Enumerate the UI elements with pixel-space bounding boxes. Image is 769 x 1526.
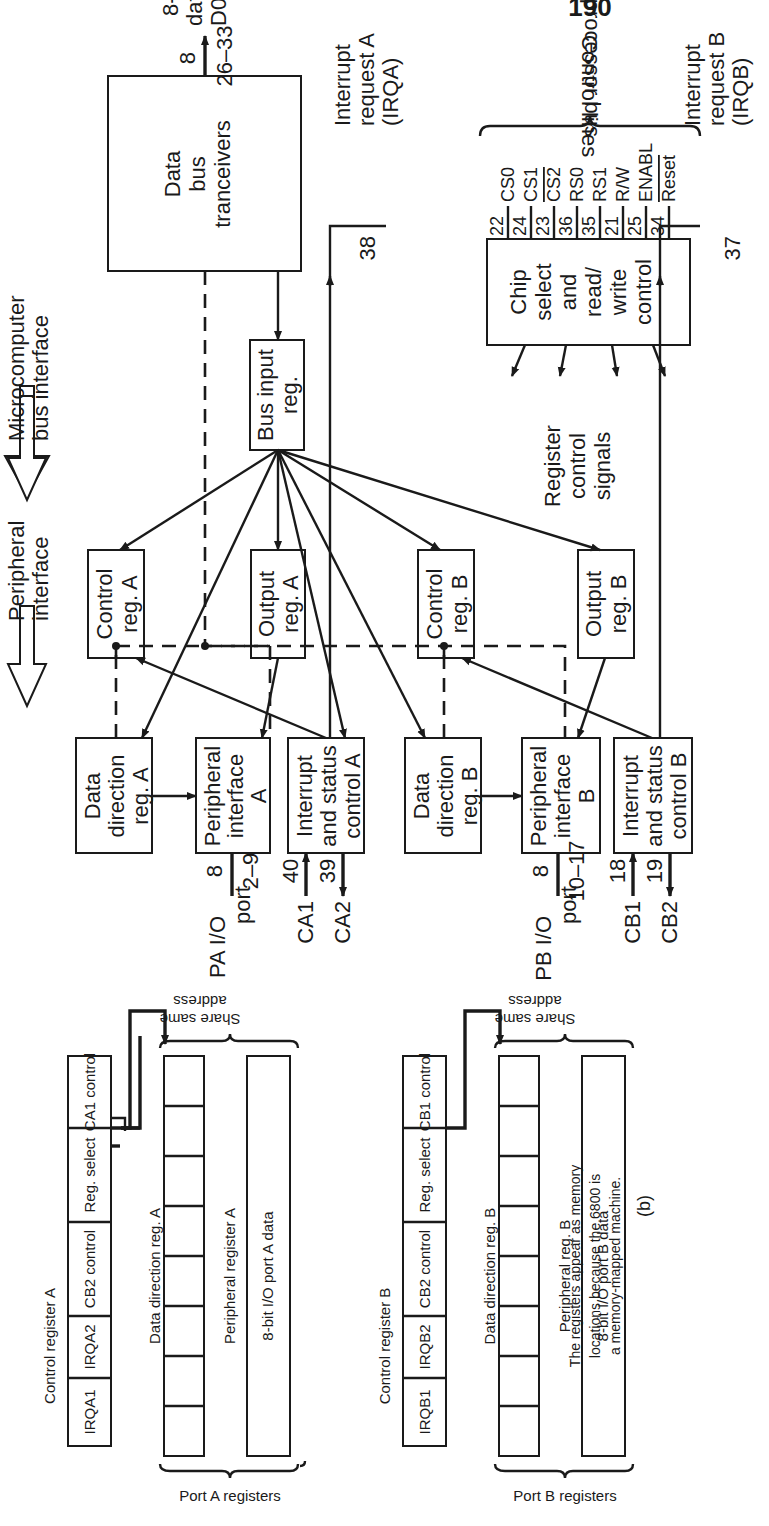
svg-text:Peripheral: Peripheral	[4, 521, 29, 621]
svg-text:port: port	[230, 886, 255, 924]
block-data-direction-reg-a: Data direction reg. A	[76, 738, 153, 853]
svg-text:25: 25	[625, 216, 645, 236]
svg-text:18: 18	[605, 859, 630, 883]
svg-text:24: 24	[510, 216, 530, 236]
share-same-address-brace-b	[495, 1034, 633, 1048]
svg-text:B: B	[574, 789, 599, 804]
svg-text:interface: interface	[550, 754, 575, 838]
svg-text:Control: Control	[92, 569, 117, 640]
block-interrupt-status-control-b: Interrupt and status control B	[614, 738, 692, 853]
svg-text:reg. B: reg. B	[606, 575, 631, 634]
svg-text:locations because the 6800 is: locations because the 6800 is	[587, 1174, 603, 1358]
svg-text:direction: direction	[433, 754, 458, 837]
svg-text:39: 39	[315, 859, 340, 883]
svg-text:select: select	[531, 263, 556, 320]
svg-text:40: 40	[278, 859, 303, 883]
svg-text:bus interface: bus interface	[28, 315, 53, 441]
port-ca1: 40 CA1	[278, 853, 318, 944]
svg-text:reg. B: reg. B	[447, 575, 472, 634]
svg-text:A: A	[246, 788, 271, 803]
svg-text:CA2: CA2	[330, 901, 355, 944]
port-cb1: 18 CB1	[605, 853, 645, 944]
svg-text:signals: signals	[590, 432, 615, 500]
svg-text:port: port	[556, 886, 581, 924]
svg-text:Share same: Share same	[160, 1011, 241, 1028]
svg-text:35: 35	[579, 216, 599, 236]
svg-text:CS0: CS0	[498, 167, 518, 202]
port-ca2: 39 CA2	[315, 853, 355, 944]
port-a-registers: Control register A IRQA1 IRQA2 CB2 contr…	[41, 993, 305, 1504]
block-interrupt-status-control-a: Interrupt and status control A	[288, 738, 365, 853]
block-control-reg-a: Control reg. A	[88, 550, 144, 658]
svg-text:Data: Data	[80, 772, 105, 819]
svg-text:control: control	[631, 259, 656, 325]
svg-text:and status: and status	[316, 745, 341, 847]
control-register-b-title: Control register B	[376, 1288, 393, 1405]
svg-text:request B: request B	[704, 32, 729, 126]
reg-select-pointer-a	[111, 1011, 165, 1128]
svg-text:Interrupt: Interrupt	[618, 755, 643, 837]
svg-text:36: 36	[556, 216, 576, 236]
caption: The registers appear as memory locations…	[567, 1165, 654, 1367]
svg-text:ENABL: ENABL	[636, 143, 656, 202]
svg-text:RS1: RS1	[590, 167, 610, 202]
svg-text:reg. A: reg. A	[278, 575, 303, 633]
svg-text:Port B registers: Port B registers	[513, 1487, 616, 1504]
svg-text:Output: Output	[581, 571, 606, 637]
side-label-peripheral: Peripheral interface	[4, 521, 53, 621]
svg-text:(IRQA): (IRQA)	[378, 58, 403, 126]
svg-text:8: 8	[175, 52, 200, 64]
share-same-address-brace-a	[160, 1034, 298, 1048]
svg-text:control A: control A	[340, 753, 365, 839]
block-bus-input-reg: Bus input reg.	[250, 340, 304, 450]
pia-block-diagram: Microcomputer bus interface Peripheral i…	[0, 0, 769, 1526]
register-control-signals-label: Register control signals	[540, 425, 615, 507]
port-a-brace	[160, 1464, 298, 1478]
svg-text:(IRQB): (IRQB)	[728, 58, 753, 126]
svg-text:Share same: Share same	[495, 1011, 576, 1028]
svg-text:and: and	[556, 274, 581, 311]
svg-text:8-bit: 8-bit	[158, 0, 183, 16]
svg-text:reg. A: reg. A	[117, 575, 142, 633]
page-number: 190	[568, 0, 611, 22]
svg-text:PA I/O: PA I/O	[205, 916, 230, 978]
side-label-microcomputer: Microcomputer bus interface	[4, 296, 53, 441]
svg-text:IRQB2: IRQB2	[416, 1324, 433, 1369]
svg-text:Reg. select: Reg. select	[416, 1137, 433, 1213]
svg-text:22: 22	[487, 216, 507, 236]
svg-text:Microcomputer: Microcomputer	[4, 296, 29, 441]
block-data-bus-tranceivers: Data bus tranceivers	[108, 76, 301, 271]
svg-text:Peripheral register A: Peripheral register A	[221, 1208, 238, 1344]
svg-text:reg. B: reg. B	[457, 767, 482, 826]
block-peripheral-interface-a: Peripheral interface A	[196, 738, 271, 853]
port-pa: 8 2–9 PA I/O port	[202, 853, 263, 978]
svg-text:CB2 control: CB2 control	[416, 1230, 433, 1308]
reg-select-pointer-b	[446, 1011, 500, 1128]
svg-text:CB2 control: CB2 control	[81, 1230, 98, 1308]
svg-text:Chip: Chip	[506, 269, 531, 314]
svg-text:19: 19	[642, 859, 667, 883]
svg-text:Port A registers: Port A registers	[179, 1487, 281, 1504]
svg-text:address: address	[508, 993, 561, 1010]
svg-text:Data direction reg. B: Data direction reg. B	[481, 1208, 498, 1345]
svg-text:D0–D7: D0–D7	[206, 0, 231, 26]
part-label-b: (b)	[634, 1195, 654, 1217]
svg-text:8: 8	[528, 865, 553, 877]
port-cb2: 19 CB2	[642, 853, 682, 944]
port-pb: 8 10–17 PB I/O port	[528, 840, 589, 980]
block-output-reg-a: Output reg. A	[251, 550, 305, 658]
svg-text:CA1 control: CA1 control	[81, 1053, 98, 1131]
svg-text:8-bit I/O port A data: 8-bit I/O port A data	[259, 1211, 276, 1341]
svg-text:CS2: CS2	[544, 167, 564, 202]
svg-text:address: address	[173, 993, 226, 1010]
data-bus-d0-d7: 8 26–33 8-bit data bus D0–D7	[158, 0, 237, 87]
svg-text:Interrupt: Interrupt	[292, 755, 317, 837]
svg-text:control: control	[565, 433, 590, 499]
svg-text:PB I/O: PB I/O	[531, 916, 556, 981]
svg-text:26–33: 26–33	[212, 25, 237, 86]
svg-text:Peripheral: Peripheral	[200, 746, 225, 846]
block-control-reg-b: Control reg. B	[418, 550, 474, 658]
svg-text:IRQA1: IRQA1	[81, 1389, 98, 1434]
svg-text:IRQA2: IRQA2	[81, 1324, 98, 1369]
svg-text:read/: read/	[581, 266, 606, 317]
